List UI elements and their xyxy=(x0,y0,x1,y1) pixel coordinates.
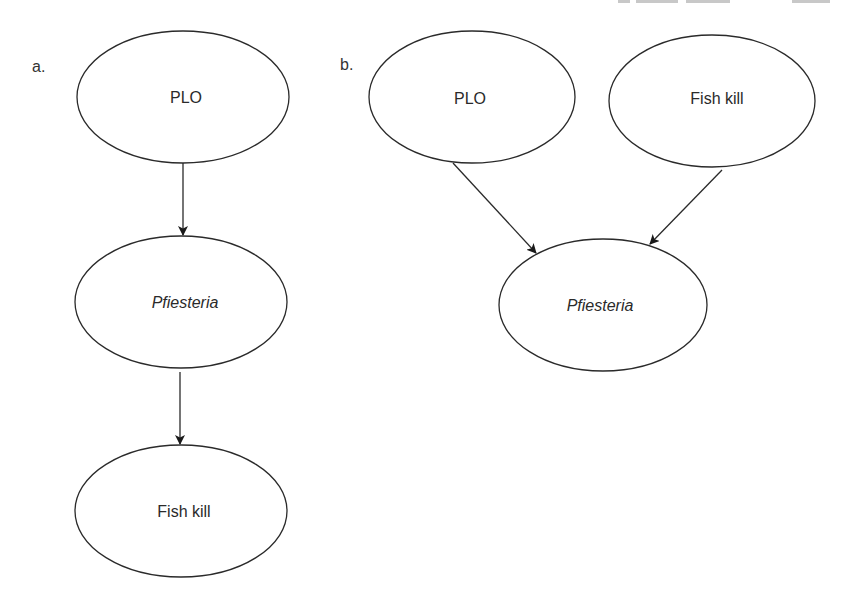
node-label: PLO xyxy=(454,90,486,107)
edge-b-fishkill-to-pfiesteria xyxy=(650,170,722,244)
node-a-plo: PLO xyxy=(77,31,289,163)
node-b-fishkill: Fish kill xyxy=(609,35,815,167)
node-label: Fish kill xyxy=(157,503,210,520)
node-a-pfiesteria: Pfiesteria xyxy=(75,236,287,368)
node-a-fishkill: Fish kill xyxy=(75,445,287,577)
node-label: Pfiesteria xyxy=(152,294,219,311)
causal-diagram: a. PLO Pfiesteria Fish kill b. PLO Fish … xyxy=(0,0,860,593)
node-label: Fish kill xyxy=(690,90,743,107)
node-b-pfiesteria: Pfiesteria xyxy=(499,239,707,371)
node-label: PLO xyxy=(170,89,202,106)
panel-a: a. PLO Pfiesteria Fish kill xyxy=(32,31,289,577)
edge-b-plo-to-pfiesteria xyxy=(453,163,536,253)
panel-a-label: a. xyxy=(32,58,45,75)
panel-b-label: b. xyxy=(340,56,353,73)
clipped-page-header xyxy=(618,0,830,3)
node-b-plo: PLO xyxy=(369,31,575,163)
panel-b: b. PLO Fish kill Pfiesteria xyxy=(340,31,815,371)
node-label: Pfiesteria xyxy=(567,297,634,314)
